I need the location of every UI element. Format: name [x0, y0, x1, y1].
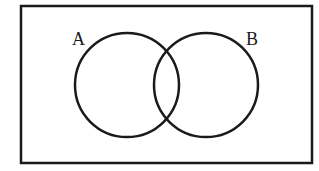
set-b-label: B [246, 29, 258, 49]
set-b-circle [154, 33, 258, 137]
universal-set-rectangle [21, 6, 312, 163]
venn-diagram: A B [0, 0, 319, 171]
set-a-label: A [72, 29, 85, 49]
set-a-circle [75, 33, 179, 137]
